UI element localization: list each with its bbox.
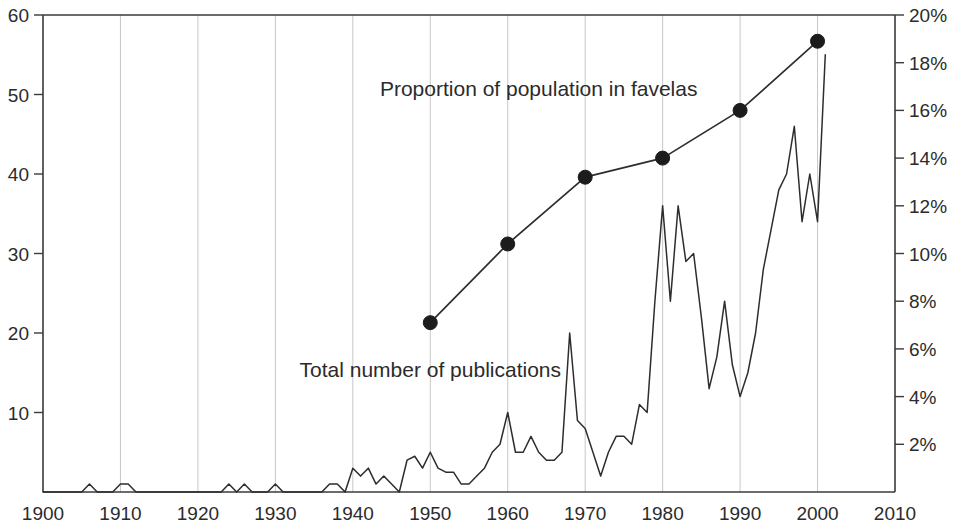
y-axis-right-tick-label: 6% [909, 339, 937, 360]
x-axis-tick-label: 1980 [641, 503, 683, 523]
annotation-favelas-label: Proportion of population in favelas [380, 77, 698, 100]
y-axis-left-tick-label: 60 [8, 5, 29, 26]
y-axis-right-tick-label: 14% [909, 148, 947, 169]
series-data-point-favelas [811, 34, 825, 48]
x-axis-tick-label: 1910 [99, 503, 141, 523]
series-data-point-favelas [423, 316, 437, 330]
x-axis-tick-label: 1950 [409, 503, 451, 523]
series-data-point-favelas [578, 170, 592, 184]
x-axis-tick-label: 1990 [719, 503, 761, 523]
y-axis-left-tick-label: 20 [8, 323, 29, 344]
x-axis-tick-label: 1900 [22, 503, 64, 523]
y-axis-left-tick-label: 50 [8, 85, 29, 106]
x-axis-tick-label: 1970 [564, 503, 606, 523]
chart-container: 1020304050602%4%6%8%10%12%14%16%18%20%19… [0, 0, 957, 523]
x-axis-tick-label: 1940 [332, 503, 374, 523]
series-data-point-favelas [733, 103, 747, 117]
x-axis-tick-label: 2000 [796, 503, 838, 523]
y-axis-right-tick-label: 18% [909, 53, 947, 74]
x-axis-tick-label: 1920 [177, 503, 219, 523]
y-axis-right-tick-label: 4% [909, 387, 937, 408]
y-axis-right-tick-label: 12% [909, 196, 947, 217]
chart-canvas: 1020304050602%4%6%8%10%12%14%16%18%20%19… [0, 0, 957, 523]
y-axis-right-tick-label: 10% [909, 244, 947, 265]
x-axis-tick-label: 1960 [487, 503, 529, 523]
y-axis-right-tick-label: 2% [909, 434, 937, 455]
series-data-point-favelas [501, 237, 515, 251]
x-axis-tick-label: 1930 [254, 503, 296, 523]
y-axis-right-tick-label: 20% [909, 5, 947, 26]
y-axis-left-tick-label: 40 [8, 164, 29, 185]
x-axis-tick-label: 2010 [874, 503, 916, 523]
y-axis-left-tick-label: 30 [8, 244, 29, 265]
y-axis-left-tick-label: 10 [8, 403, 29, 424]
y-axis-right-tick-label: 16% [909, 100, 947, 121]
y-axis-right-tick-label: 8% [909, 291, 937, 312]
annotation-publications-label: Total number of publications [300, 358, 562, 381]
series-data-point-favelas [656, 151, 670, 165]
